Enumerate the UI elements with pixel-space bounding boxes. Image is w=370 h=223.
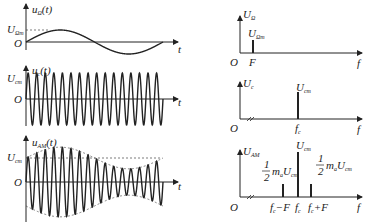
x-axis-label: f — [357, 57, 362, 69]
carrier-signal-plot: uc(t) Ucm O t — [7, 64, 182, 126]
amplitude-label: UΩm — [7, 23, 24, 36]
x-axis-label: t — [178, 96, 182, 108]
modulating-signal-plot: uΩ(t) UΩm O t — [7, 3, 182, 55]
y-axis-label: Uc — [243, 77, 254, 90]
origin-label: O — [230, 56, 238, 68]
freq-label-lower: fc−F — [270, 201, 290, 214]
fraction-denominator: 2 — [318, 165, 324, 177]
amplitude-label: Ucm — [7, 72, 23, 85]
line-amplitude-label: Ucm — [296, 81, 312, 94]
lower-sideband-amplitude-label: 1 2 maUcm — [262, 158, 299, 183]
modulating-spectrum: UΩ UΩm O F f — [230, 8, 362, 69]
y-axis-label: uΩ(t) — [32, 3, 53, 16]
y-axis-label: UΩ — [243, 8, 256, 21]
diagram-canvas: uΩ(t) UΩm O t uc(t) Ucm O t uAM(t) Ucm O… — [0, 0, 370, 223]
am-modulation-diagram: uΩ(t) UΩm O t uc(t) Ucm O t uAM(t) Ucm O… — [0, 0, 370, 223]
fraction-denominator: 2 — [264, 171, 270, 183]
x-axis-label: f — [357, 123, 362, 135]
y-axis-label: uAM(t) — [32, 136, 57, 149]
am-signal-plot: uAM(t) Ucm O t — [7, 136, 182, 222]
freq-label-F: F — [248, 56, 256, 68]
sideband-expression: maUcm — [272, 165, 299, 178]
lower-envelope — [26, 195, 163, 217]
fraction-numerator: 1 — [264, 158, 270, 170]
sideband-expression: maUcm — [326, 159, 353, 172]
amplitude-label: Ucm — [7, 151, 23, 164]
y-axis-label: uc(t) — [32, 64, 51, 77]
origin-label: O — [14, 37, 22, 49]
upper-sideband-amplitude-label: 1 2 maUcm — [316, 152, 353, 177]
origin-label: O — [14, 176, 22, 188]
origin-label: O — [230, 201, 238, 213]
x-axis-label: t — [178, 180, 182, 192]
origin-label: O — [230, 122, 238, 134]
am-spectrum: UAM Ucm 1 2 maUcm 1 2 maUcm O fc−F fc fc… — [230, 139, 362, 214]
carrier-amplitude-label: Ucm — [296, 139, 312, 152]
origin-label: O — [14, 93, 22, 105]
carrier-spectrum: Uc Ucm O fc f — [230, 77, 362, 135]
freq-label-upper: fc+F — [308, 201, 328, 214]
y-axis-label: UAM — [243, 145, 261, 158]
freq-label-fc: fc — [295, 122, 301, 135]
x-axis-label: f — [357, 201, 362, 213]
x-axis-label: t — [178, 43, 182, 55]
line-amplitude-label: UΩm — [248, 27, 265, 40]
fraction-numerator: 1 — [318, 152, 324, 164]
freq-label-carrier: fc — [295, 201, 301, 214]
